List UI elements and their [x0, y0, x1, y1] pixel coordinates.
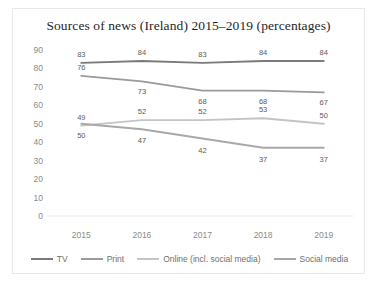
- chart-legend: TVPrintOnline (incl. social media)Social…: [13, 254, 366, 264]
- x-axis-tick-label: 2019: [314, 230, 333, 240]
- data-point-label: 68: [259, 96, 267, 105]
- data-point-label: 42: [198, 145, 206, 154]
- x-axis-tick-label: 2017: [193, 230, 212, 240]
- data-point-label: 84: [259, 48, 267, 57]
- legend-item[interactable]: TV: [31, 254, 68, 264]
- data-point-label: 83: [198, 49, 206, 58]
- data-point-label: 52: [198, 107, 206, 116]
- legend-line-icon: [274, 258, 296, 260]
- data-point-label: 49: [77, 112, 85, 121]
- legend-label: Online (incl. social media): [163, 254, 260, 264]
- data-point-label: 84: [138, 48, 146, 57]
- data-point-label: 68: [198, 96, 206, 105]
- data-point-label: 50: [77, 130, 85, 139]
- data-point-label: 50: [320, 110, 328, 119]
- legend-label: TV: [57, 254, 68, 264]
- x-axis: 20152016201720182019: [13, 9, 366, 275]
- data-point-label: 76: [77, 62, 85, 71]
- legend-line-icon: [31, 258, 53, 260]
- chart-container: Sources of news (Ireland) 2015–2019 (per…: [12, 8, 365, 274]
- data-point-label: 84: [320, 48, 328, 57]
- x-axis-tick-label: 2016: [132, 230, 151, 240]
- data-point-label: 67: [320, 98, 328, 107]
- legend-item[interactable]: Social media: [274, 254, 349, 264]
- data-point-label: 37: [320, 154, 328, 163]
- legend-label: Social media: [300, 254, 349, 264]
- data-point-label: 47: [138, 136, 146, 145]
- x-axis-tick-label: 2015: [72, 230, 91, 240]
- data-point-label: 83: [77, 49, 85, 58]
- plot-area: 0102030405060708090 20152016201720182019…: [13, 9, 366, 275]
- legend-item[interactable]: Print: [81, 254, 124, 264]
- data-point-label: 37: [259, 154, 267, 163]
- legend-line-icon: [137, 258, 159, 260]
- data-point-label: 52: [138, 107, 146, 116]
- x-axis-tick-label: 2018: [254, 230, 273, 240]
- legend-line-icon: [81, 258, 103, 260]
- data-point-label: 53: [259, 105, 267, 114]
- legend-item[interactable]: Online (incl. social media): [137, 254, 260, 264]
- data-point-label: 73: [138, 87, 146, 96]
- legend-label: Print: [107, 254, 124, 264]
